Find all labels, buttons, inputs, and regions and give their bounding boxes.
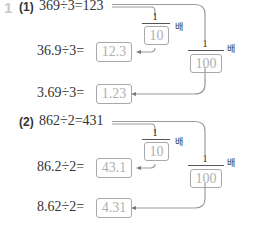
answer-box-2-1: 43.1 (96, 158, 132, 178)
arrowhead (136, 50, 141, 54)
fraction-numerator: 1 (195, 152, 215, 164)
answer-box-2-2: 4.31 (96, 198, 132, 218)
fraction-bar (188, 165, 224, 166)
equation-1-1: 36.9÷3= (37, 43, 84, 59)
arrow-1-10 (140, 48, 155, 52)
arrowhead (136, 166, 141, 170)
fraction-denominator-box: 10 (144, 26, 169, 45)
equation-2-1: 86.2÷2= (37, 159, 84, 175)
answer-box-1-1: 12.3 (96, 42, 132, 62)
fraction-bar (142, 139, 170, 140)
times-unit-label: 배 (227, 156, 235, 169)
fraction-numerator: 1 (145, 126, 165, 138)
fraction-bar (142, 23, 170, 24)
fraction-numerator: 1 (145, 10, 165, 22)
problem-number: 1 (4, 0, 12, 16)
times-unit-label: 배 (175, 135, 183, 148)
base-equation-1: 369÷3=123 (39, 0, 104, 14)
answer-box-1-2: 1.23 (96, 84, 132, 104)
base-equation-2: 862÷2=431 (39, 113, 104, 129)
fraction-denominator-box: 100 (190, 54, 222, 73)
arrow-2-10 (140, 164, 155, 168)
part-label-1: (1) (19, 0, 34, 14)
equation-1-2: 3.69÷3= (37, 85, 84, 101)
times-unit-label: 배 (175, 20, 183, 33)
fraction-denominator-box: 10 (144, 142, 169, 161)
times-unit-label: 배 (227, 42, 235, 55)
fraction-bar (188, 50, 224, 51)
fraction-denominator-box: 100 (190, 169, 222, 188)
fraction-numerator: 1 (195, 37, 215, 49)
part-label-2: (2) (19, 115, 34, 129)
equation-2-2: 8.62÷2= (37, 199, 84, 215)
